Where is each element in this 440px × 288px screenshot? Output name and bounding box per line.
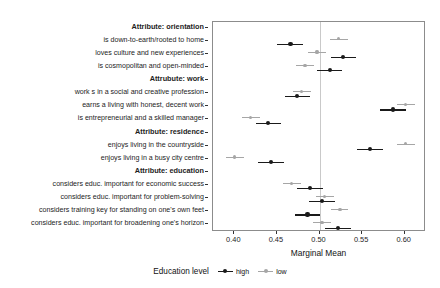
x-axis-tick: [361, 231, 362, 234]
x-axis-tick: [319, 231, 320, 234]
y-axis-level-label: considers educ. important for problem-so…: [60, 191, 204, 203]
y-axis-level-label: considers educ. important for economic s…: [53, 178, 204, 190]
legend-key-high[interactable]: high: [218, 268, 249, 276]
y-axis-tick: [205, 53, 208, 54]
y-axis-level-label: enjoys living in a busy city centre: [101, 152, 204, 164]
y-axis-level-label: is cosmopolitan and open-minded: [98, 60, 204, 72]
y-axis-level-label: work s in a social and creative professi…: [75, 86, 204, 98]
y-axis-tick: [205, 210, 208, 211]
y-axis-tick: [205, 158, 208, 159]
x-axis-tick-label: 0.60: [396, 235, 410, 244]
y-axis-group-label: Attribute: education: [135, 165, 204, 177]
y-axis-tick: [205, 197, 208, 198]
x-axis-tick-label: 0.55: [354, 235, 368, 244]
y-axis-level-label: considers training key for standing on o…: [39, 204, 204, 216]
legend: Education level high low: [0, 267, 440, 276]
y-axis-level-label: is entrepreneurial and a skilled manager: [78, 112, 204, 124]
y-axis-tick: [205, 105, 208, 106]
data-point: [266, 121, 270, 125]
y-axis-level-label: loves culture and new experiences: [95, 47, 204, 59]
x-axis-title: Marginal Mean: [212, 248, 425, 258]
y-axis-level-label: is down-to-earth/rooted to home: [103, 34, 204, 46]
y-axis-tick: [205, 223, 208, 224]
y-axis-tick: [205, 132, 208, 133]
y-axis-labels: Attribute: orientationis down-to-earth/r…: [0, 20, 208, 232]
y-axis-group-label: Attrubute: work: [150, 73, 204, 85]
x-axis-tick-label: 0.40: [226, 235, 240, 244]
marginal-means-chart: Attribute: orientationis down-to-earth/r…: [0, 0, 440, 288]
y-axis-tick: [205, 92, 208, 93]
x-axis-tick: [233, 231, 234, 234]
x-axis-tick-label: 0.45: [269, 235, 283, 244]
y-axis-tick: [205, 79, 208, 80]
legend-label-high: high: [236, 268, 249, 275]
y-axis-level-label: enjoys living in the countryside: [108, 139, 204, 151]
y-axis-tick: [205, 145, 208, 146]
estimate-marker: [213, 117, 424, 129]
legend-key-low[interactable]: low: [258, 268, 287, 276]
y-axis-tick: [205, 184, 208, 185]
legend-title: Education level: [153, 267, 209, 276]
legend-glyph-low-icon: [258, 268, 273, 276]
y-axis-tick: [205, 66, 208, 67]
x-axis-tick: [276, 231, 277, 234]
x-axis-tick-label: 0.50: [311, 235, 325, 244]
data-point: [269, 160, 273, 164]
x-axis-tick: [404, 231, 405, 234]
estimate-marker: [213, 65, 424, 77]
legend-glyph-high-icon: [218, 268, 233, 276]
y-axis-tick: [205, 118, 208, 119]
y-axis-tick: [205, 40, 208, 41]
plot-panel: [212, 21, 425, 231]
legend-label-low: low: [276, 268, 287, 275]
data-point: [336, 226, 340, 230]
data-point: [328, 68, 332, 72]
y-axis-level-label: earns a living with honest, decent work: [82, 99, 204, 111]
y-axis-group-label: Attribute: residence: [135, 126, 204, 138]
y-axis-tick: [205, 171, 208, 172]
y-axis-tick: [205, 27, 208, 28]
y-axis-level-label: considers educ. important for broadening…: [31, 217, 204, 229]
y-axis-group-label: Attribute: orientation: [131, 21, 204, 33]
estimate-marker: [213, 156, 424, 168]
